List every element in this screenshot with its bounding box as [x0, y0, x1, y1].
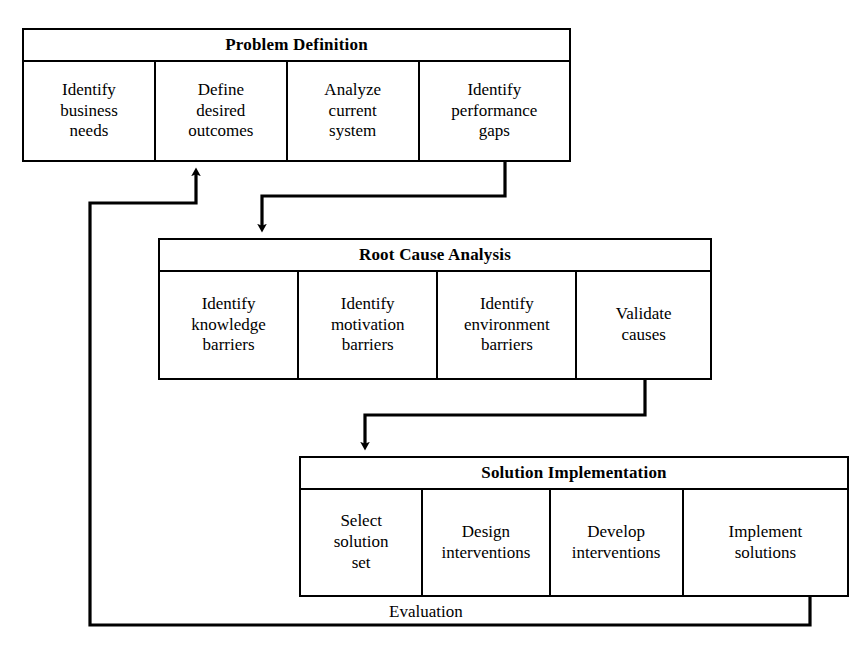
evaluation-loop-label: Evaluation [389, 603, 463, 620]
cell-identify-environment-barriers[interactable]: Identify environment barriers [438, 272, 577, 378]
cell-design-interventions[interactable]: Design interventions [423, 490, 550, 595]
cell-identify-knowledge-barriers[interactable]: Identify knowledge barriers [160, 272, 299, 378]
cell-label: Design interventions [442, 522, 531, 563]
cell-label: Develop interventions [572, 522, 661, 563]
cell-label: Identify knowledge barriers [191, 294, 266, 356]
cell-validate-causes[interactable]: Validate causes [577, 272, 710, 378]
connector-problem-to-root [262, 162, 505, 228]
connector-root-to-solution [365, 380, 645, 446]
cell-identify-motivation-barriers[interactable]: Identify motivation barriers [299, 272, 438, 378]
cell-label: Identify performance gaps [451, 80, 537, 142]
stage-header-root-cause-analysis: Root Cause Analysis [160, 240, 710, 272]
cell-label: Identify business needs [60, 80, 118, 142]
cell-label: Define desired outcomes [188, 80, 253, 142]
cell-identify-performance-gaps[interactable]: Identify performance gaps [420, 62, 569, 160]
cell-label: Validate causes [616, 304, 672, 345]
cell-implement-solutions[interactable]: Implement solutions [684, 490, 847, 595]
cell-label: Implement solutions [729, 522, 803, 563]
stage-cells-root-cause-analysis: Identify knowledge barriers Identify mot… [160, 272, 710, 378]
stage-root-cause-analysis[interactable]: Root Cause Analysis Identify knowledge b… [158, 238, 712, 380]
cell-define-desired-outcomes[interactable]: Define desired outcomes [156, 62, 288, 160]
stage-header-solution-implementation: Solution Implementation [301, 458, 847, 490]
stage-cells-solution-implementation: Select solution set Design interventions… [301, 490, 847, 595]
cell-label: Select solution set [334, 511, 389, 573]
cell-analyze-current-system[interactable]: Analyze current system [288, 62, 420, 160]
cell-label: Analyze current system [324, 80, 381, 142]
stage-header-problem-definition: Problem Definition [24, 30, 569, 62]
diagram-canvas: Problem Definition Identify business nee… [0, 0, 866, 650]
cell-label: Identify motivation barriers [331, 294, 405, 356]
cell-label: Identify environment barriers [464, 294, 550, 356]
stage-cells-problem-definition: Identify business needs Define desired o… [24, 62, 569, 160]
stage-solution-implementation[interactable]: Solution Implementation Select solution … [299, 456, 849, 597]
cell-develop-interventions[interactable]: Develop interventions [551, 490, 684, 595]
cell-select-solution-set[interactable]: Select solution set [301, 490, 423, 595]
stage-problem-definition[interactable]: Problem Definition Identify business nee… [22, 28, 571, 162]
cell-identify-business-needs[interactable]: Identify business needs [24, 62, 156, 160]
